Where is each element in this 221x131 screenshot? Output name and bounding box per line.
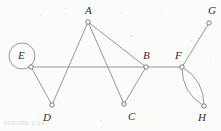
vertex-label-H: H [198,112,206,123]
edge-A-C [88,22,124,104]
vertex-H [202,104,206,108]
vertex-D [50,103,54,107]
edge-B-C [124,67,146,104]
vertex-E [29,65,33,69]
graph-figure: ABCDEFGH FIGURE 2.14 [0,0,221,131]
vertex-label-B: B [143,50,150,61]
vertex-label-E: E [18,50,25,61]
edge-A-B [88,22,146,67]
edge-F-G [182,23,209,67]
vertex-B [144,65,148,69]
edge-layer [31,22,209,106]
vertex-label-A: A [85,5,92,16]
figure-caption: FIGURE 2.14 [4,120,44,126]
edge-E-D [31,67,52,105]
vertex-label-G: G [208,5,216,16]
vertex-G [207,21,211,25]
vertex-C [122,102,126,106]
vertex-A [86,20,90,24]
vertex-F [180,65,184,69]
graph-canvas [0,0,221,131]
edge-A-D [52,22,88,105]
vertex-label-F: F [175,50,182,61]
vertex-label-C: C [128,111,135,122]
